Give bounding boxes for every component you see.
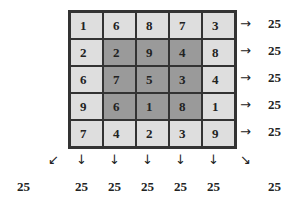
down-arrow-icon: ↓ bbox=[76, 152, 87, 167]
down-arrow-icon: ↓ bbox=[142, 152, 153, 167]
main-diagonal-sum: 25 bbox=[268, 179, 281, 195]
grid-cell: 3 bbox=[169, 66, 202, 93]
grid-cell: 2 bbox=[136, 120, 169, 147]
grid-cell: 7 bbox=[70, 120, 103, 147]
grid-cell: 9 bbox=[70, 93, 103, 120]
grid-cell: 4 bbox=[103, 120, 136, 147]
column-sum: 25 bbox=[141, 179, 154, 195]
row-sum: 25 bbox=[268, 16, 281, 32]
right-arrow-icon: → bbox=[240, 43, 251, 58]
down-left-arrow-icon: ↙ bbox=[48, 152, 59, 167]
grid-cell: 1 bbox=[136, 93, 169, 120]
grid-cell: 6 bbox=[103, 12, 136, 39]
grid-cell: 4 bbox=[202, 66, 235, 93]
magic-square-grid: 1687322948675349618174239 bbox=[68, 10, 237, 149]
grid-cell: 2 bbox=[103, 39, 136, 66]
grid-cell: 3 bbox=[169, 120, 202, 147]
grid-cell: 8 bbox=[202, 39, 235, 66]
grid-cell: 7 bbox=[169, 12, 202, 39]
right-arrow-icon: → bbox=[240, 124, 251, 139]
right-arrow-icon: → bbox=[240, 70, 251, 85]
column-sum: 25 bbox=[174, 179, 187, 195]
down-arrow-icon: ↓ bbox=[175, 152, 186, 167]
grid-cell: 9 bbox=[136, 39, 169, 66]
grid-cell: 2 bbox=[70, 39, 103, 66]
down-arrow-icon: ↓ bbox=[109, 152, 120, 167]
row-sum: 25 bbox=[268, 70, 281, 86]
row-sum: 25 bbox=[268, 97, 281, 113]
right-arrow-icon: → bbox=[240, 16, 251, 31]
column-sum: 25 bbox=[108, 179, 121, 195]
grid-cell: 1 bbox=[202, 93, 235, 120]
grid-cell: 1 bbox=[70, 12, 103, 39]
grid-cell: 8 bbox=[169, 93, 202, 120]
grid-cell: 9 bbox=[202, 120, 235, 147]
grid-cell: 8 bbox=[136, 12, 169, 39]
row-sum: 25 bbox=[268, 124, 281, 140]
grid-cell: 6 bbox=[70, 66, 103, 93]
grid-cell: 7 bbox=[103, 66, 136, 93]
right-arrow-icon: → bbox=[240, 97, 251, 112]
anti-diagonal-sum: 25 bbox=[17, 179, 30, 195]
grid-cell: 6 bbox=[103, 93, 136, 120]
column-sum: 25 bbox=[75, 179, 88, 195]
grid-cell: 5 bbox=[136, 66, 169, 93]
row-sum: 25 bbox=[268, 43, 281, 59]
column-sum: 25 bbox=[207, 179, 220, 195]
down-right-arrow-icon: ↘ bbox=[240, 152, 251, 167]
down-arrow-icon: ↓ bbox=[208, 152, 219, 167]
grid-cell: 3 bbox=[202, 12, 235, 39]
grid-cell: 4 bbox=[169, 39, 202, 66]
